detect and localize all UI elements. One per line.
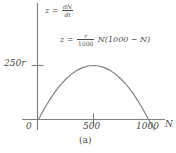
- eq-z-expr-equals: =: [67, 35, 74, 44]
- logistic-growth-figure: z = dN dt z = r 1000 N(1000 − N) 250r 0 …: [0, 0, 176, 153]
- eq-z-def-equals: =: [52, 6, 59, 15]
- eq-z-expr-fraction: r 1000: [77, 33, 94, 47]
- x-tick-label-500: 500: [83, 122, 100, 131]
- eq-z-def-denominator: dt: [62, 12, 73, 18]
- eq-z-def-numerator: dN: [62, 4, 73, 10]
- figure-caption: (a): [79, 136, 91, 145]
- eq-z-def-lhs: z: [45, 6, 49, 15]
- equation-z-definition: z = dN dt: [45, 4, 74, 18]
- eq-z-expr-numerator: r: [77, 33, 94, 39]
- eq-z-expr-lhs: z: [60, 35, 64, 44]
- x-tick-label-0: 0: [26, 122, 32, 131]
- eq-z-def-fraction: dN dt: [62, 4, 73, 18]
- x-axis-label: N: [165, 120, 173, 129]
- y-tick-label-250r: 250r: [4, 59, 25, 68]
- eq-z-expr-denominator: 1000: [77, 41, 94, 47]
- equation-z-expression: z = r 1000 N(1000 − N): [60, 33, 150, 47]
- x-tick-label-1000: 1000: [136, 122, 159, 131]
- eq-z-expr-rest: N(1000 − N): [98, 35, 150, 44]
